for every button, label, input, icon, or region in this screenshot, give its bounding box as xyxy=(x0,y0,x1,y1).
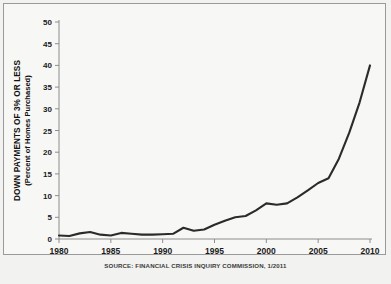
x-axis-ticks: 1980198519901995200020052010 xyxy=(50,239,380,256)
y-axis-title: DOWN PAYMENTS OF 3% OR LESS xyxy=(13,60,22,201)
x-tick-label: 1990 xyxy=(153,246,172,256)
y-tick-label: 25 xyxy=(43,127,52,136)
y-tick-label: 10 xyxy=(43,192,52,201)
y-tick-label: 35 xyxy=(43,83,52,92)
x-tick-label: 2000 xyxy=(257,246,276,256)
y-tick-label: 40 xyxy=(43,61,52,70)
line-chart: 05101520253035404550 1980198519901995200… xyxy=(0,0,391,284)
y-axis-ticks: 05101520253035404550 xyxy=(43,18,59,244)
y-tick-label: 45 xyxy=(43,40,52,49)
x-tick-label: 2005 xyxy=(309,246,328,256)
y-axis-subtitle: (Percent of Homes Purchased) xyxy=(23,75,32,186)
y-tick-label: 15 xyxy=(43,170,52,179)
x-tick-label: 1985 xyxy=(101,246,120,256)
y-tick-label: 5 xyxy=(48,213,53,222)
x-tick-label: 1980 xyxy=(50,246,69,256)
x-tick-label: 1995 xyxy=(205,246,224,256)
chart-container: 05101520253035404550 1980198519901995200… xyxy=(0,0,391,284)
source-caption: SOURCE: FINANCIAL CRISIS INQUIRY COMMISS… xyxy=(0,262,391,269)
y-tick-label: 50 xyxy=(43,18,52,27)
data-series-line xyxy=(59,65,370,236)
x-tick-label: 2010 xyxy=(361,246,380,256)
y-tick-label: 0 xyxy=(48,235,53,244)
y-tick-label: 30 xyxy=(43,105,52,114)
y-tick-label: 20 xyxy=(43,148,52,157)
